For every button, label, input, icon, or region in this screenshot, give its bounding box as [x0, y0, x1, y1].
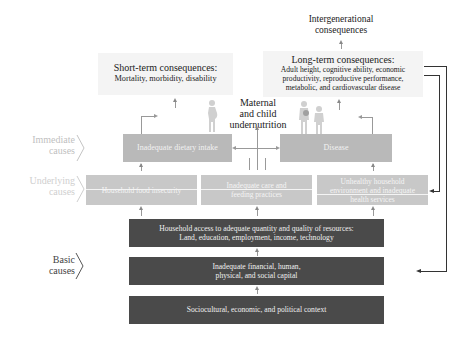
connector: [257, 128, 258, 170]
household-access-line-2: Land, education, employment, income, tec…: [179, 233, 333, 242]
divider: [201, 189, 312, 190]
short-term-consequences-box: Short-term consequences: Mortality, morb…: [98, 53, 233, 95]
immediate-line-1: Immediate: [10, 134, 75, 145]
underlying-line-1: Underlying: [10, 175, 75, 186]
feedback-line-outer: [421, 271, 447, 272]
intergenerational-consequences: Intergenerational consequences: [286, 14, 396, 36]
inadequate-dietary-intake-box: Inadequate dietary intake: [123, 134, 232, 162]
arrow-up-icon: [337, 99, 341, 103]
arrow-left-icon: [416, 269, 421, 273]
sociocultural-context-box: Sociocultural, economic, and political c…: [129, 296, 384, 324]
household-access-box: Household access to adequate quantity an…: [129, 219, 384, 247]
feedback-line-inner: [434, 191, 440, 192]
underlying-line-2: causes: [10, 186, 75, 197]
capital-line-1: Inadequate financial, human,: [212, 262, 300, 271]
feedback-line-outer: [446, 66, 447, 272]
care-line-2: feeding practices: [231, 190, 282, 199]
arrow-up-icon: [255, 286, 259, 290]
environment-line-1: Unhealthy household: [341, 177, 405, 186]
feedback-line-outer: [424, 66, 447, 67]
inadequate-capital-box: Inadequate financial, human, physical, a…: [129, 257, 384, 285]
connector: [236, 148, 276, 149]
arrow-left-icon: [358, 115, 362, 119]
household-food-insecurity-box: Household food insecurity: [86, 175, 197, 205]
short-term-title: Short-term consequences:: [98, 62, 233, 73]
long-term-title: Long-term consequences:: [263, 54, 423, 65]
environment-line-3: health services: [350, 195, 394, 204]
feedback-line-inner: [439, 75, 440, 192]
basic-line-1: Basic: [10, 254, 75, 265]
arrow-up-icon: [173, 98, 177, 102]
feedback-line-inner: [424, 75, 440, 76]
capital-line-2: physical, and social capital: [216, 271, 298, 280]
mother-child-icon: [296, 100, 326, 136]
basic-causes-label: Basic causes: [10, 254, 75, 276]
intergenerational-line-2: consequences: [286, 25, 396, 36]
chevron-right-icon: [76, 175, 85, 203]
sociocultural-text: Sociocultural, economic, and political c…: [187, 305, 327, 314]
disease-box: Disease: [280, 134, 392, 162]
arrow-right-icon: [276, 146, 280, 150]
arrow-up-icon: [139, 163, 143, 167]
connector: [249, 158, 250, 170]
underlying-causes-label: Underlying causes: [10, 175, 75, 197]
center-label-line-2: and child: [222, 108, 294, 119]
food-insecurity-text: Household food insecurity: [102, 186, 182, 195]
dietary-intake-text: Inadequate dietary intake: [137, 143, 218, 152]
long-term-line-3: metabolic, and cardiovascular disease: [263, 83, 423, 92]
long-term-line-2: productivity, reproductive performance,: [263, 74, 423, 83]
chevron-right-icon: [75, 252, 84, 280]
arrow-up-icon: [339, 40, 343, 44]
connector: [265, 158, 266, 170]
long-term-consequences-box: Long-term consequences: Adult height, co…: [263, 51, 423, 97]
arrow-up-icon: [371, 206, 375, 210]
chevron-right-icon: [76, 134, 85, 162]
immediate-line-2: causes: [10, 145, 75, 156]
arrow-up-icon: [139, 206, 143, 210]
unhealthy-environment-box: Unhealthy household environment and inad…: [317, 175, 428, 205]
arrow-left-icon: [429, 189, 434, 193]
connector: [141, 116, 142, 134]
connector: [141, 116, 154, 117]
arrow-right-icon: [154, 114, 158, 118]
household-access-line-1: Household access to adequate quantity an…: [159, 224, 353, 233]
short-term-body: Mortality, morbidity, disability: [98, 74, 233, 83]
long-term-line-1: Adult height, cognitive ability, economi…: [263, 65, 423, 74]
basic-line-2: causes: [10, 265, 75, 276]
arrow-up-icon: [255, 126, 259, 130]
arrow-up-icon: [255, 206, 259, 210]
intergenerational-line-1: Intergenerational: [286, 14, 396, 25]
arrow-left-icon: [232, 146, 236, 150]
arrow-up-icon: [255, 248, 259, 252]
divider: [317, 194, 428, 195]
center-label-line-1: Maternal: [222, 97, 294, 108]
immediate-causes-label: Immediate causes: [10, 134, 75, 156]
arrow-up-icon: [371, 163, 375, 167]
divider: [86, 189, 197, 190]
connector: [372, 117, 373, 134]
inadequate-care-box: Inadequate care and feeding practices: [201, 175, 312, 205]
pregnant-woman-icon: [205, 99, 219, 133]
connector: [362, 117, 373, 118]
disease-text: Disease: [324, 143, 349, 152]
